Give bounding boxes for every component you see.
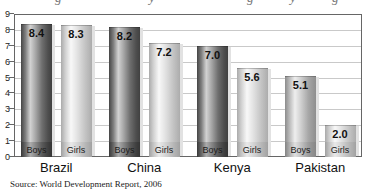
category-label-china: China	[99, 160, 189, 175]
y-axis-tick-label: 6	[0, 57, 10, 67]
clipped-title-fragment: g	[55, 0, 62, 5]
source-note: Source: World Development Report, 2006	[10, 179, 162, 189]
bar-series-label: Girls	[149, 145, 180, 155]
y-axis-tick-mark	[9, 77, 14, 78]
bar-chart: gygyg Source: World Development Report, …	[0, 0, 368, 194]
bar-series-label: Girls	[61, 145, 92, 155]
bar-series-label: Girls	[237, 145, 268, 155]
y-axis-tick-label: 2	[0, 120, 10, 130]
clipped-title-fragment: g	[247, 0, 254, 5]
bar-value-label: 8.3	[61, 28, 92, 40]
bar-value-label: 5.1	[285, 79, 316, 91]
bar-kenya-boys: 7.0Boys	[197, 46, 228, 157]
bar-series-label: Boys	[197, 145, 228, 155]
bar-series-label: Girls	[325, 145, 356, 155]
bar-value-label: 8.4	[21, 27, 52, 39]
bar-value-label: 7.0	[197, 49, 228, 61]
y-axis-tick-mark	[9, 92, 14, 93]
y-axis-tick-mark	[9, 29, 14, 30]
y-axis-tick-mark	[9, 156, 14, 157]
y-axis-tick-mark	[9, 140, 14, 141]
clipped-title-fragment: g	[332, 0, 339, 5]
clipped-title: gygyg	[0, 0, 368, 5]
y-axis-tick-mark	[9, 45, 14, 46]
y-axis-tick-mark	[9, 124, 14, 125]
y-axis-tick-label: 7	[0, 41, 10, 51]
bar-series-label: Boys	[285, 145, 316, 155]
bar-brazil-boys: 8.4Boys	[21, 24, 52, 157]
bar-brazil-girls: 8.3Girls	[61, 25, 92, 157]
bar-value-label: 2.0	[325, 128, 356, 140]
y-axis-tick-label: 4	[0, 88, 10, 98]
y-axis-tick-label: 8	[0, 25, 10, 35]
y-axis-tick-mark	[9, 13, 14, 14]
y-axis-tick-label: 5	[0, 73, 10, 83]
y-axis-tick-label: 9	[0, 9, 10, 19]
bar-value-label: 7.2	[149, 46, 180, 58]
clipped-title-fragment: y	[149, 0, 155, 5]
y-axis-tick-label: 3	[0, 104, 10, 114]
bar-value-label: 8.2	[109, 30, 140, 42]
bar-series-label: Boys	[21, 145, 52, 155]
category-label-pakistan: Pakistan	[275, 160, 365, 175]
category-label-brazil: Brazil	[11, 160, 101, 175]
bar-china-boys: 8.2Boys	[109, 27, 140, 157]
bar-kenya-girls: 5.6Girls	[237, 68, 268, 157]
bar-pakistan-boys: 5.1Boys	[285, 76, 316, 157]
y-axis-tick-label: 1	[0, 136, 10, 146]
bar-value-label: 5.6	[237, 71, 268, 83]
bar-series-label: Boys	[109, 145, 140, 155]
clipped-title-fragment: y	[290, 0, 296, 5]
bar-china-girls: 7.2Girls	[149, 43, 180, 157]
y-axis-tick-mark	[9, 108, 14, 109]
bar-pakistan-girls: 2.0Girls	[325, 125, 356, 157]
category-label-kenya: Kenya	[187, 160, 277, 175]
y-axis-tick-label: 0	[0, 152, 10, 162]
y-axis-tick-mark	[9, 61, 14, 62]
